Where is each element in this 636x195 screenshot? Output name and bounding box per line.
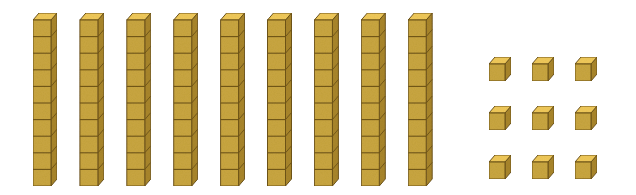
tens-rod xyxy=(268,13,292,186)
unit-cube xyxy=(532,57,554,81)
unit-cubes-group xyxy=(489,57,597,179)
unit-cube xyxy=(489,155,511,179)
tens-rod xyxy=(408,13,432,186)
unit-cube xyxy=(575,155,597,179)
tens-rod xyxy=(80,13,104,186)
tens-rods-group xyxy=(33,13,432,186)
unit-cube xyxy=(532,155,554,179)
tens-rod xyxy=(361,13,385,186)
tens-rod xyxy=(314,13,338,186)
unit-cube xyxy=(575,106,597,130)
tens-rod xyxy=(33,13,57,186)
unit-cube xyxy=(575,57,597,81)
tens-rod xyxy=(221,13,245,186)
unit-cube xyxy=(532,106,554,130)
tens-rod xyxy=(174,13,198,186)
unit-cube xyxy=(489,106,511,130)
tens-rod xyxy=(127,13,151,186)
unit-cube xyxy=(489,57,511,81)
base-ten-blocks-diagram xyxy=(0,0,636,195)
